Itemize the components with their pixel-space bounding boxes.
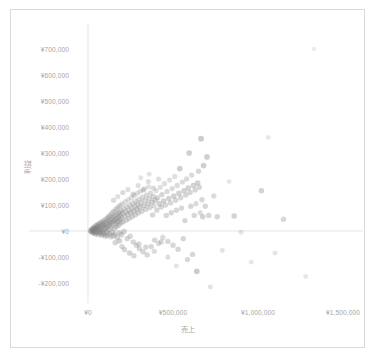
data-point — [151, 185, 156, 190]
data-point — [200, 214, 206, 220]
data-point — [231, 213, 237, 219]
data-point — [127, 234, 132, 239]
y-axis-title: 利益 — [22, 147, 32, 187]
data-point — [174, 208, 179, 213]
data-point — [141, 187, 146, 192]
data-point — [146, 179, 151, 184]
data-point — [170, 243, 175, 248]
y-axis-tick-label: ¥300,000 — [41, 150, 69, 157]
data-point — [204, 154, 210, 160]
data-point — [136, 241, 141, 246]
data-point — [149, 244, 154, 249]
data-point — [151, 203, 156, 208]
data-point — [178, 195, 183, 200]
x-axis-title: 売上 — [11, 324, 366, 334]
data-point — [184, 176, 189, 181]
chart-container: ¥700,000¥600,000¥500,000¥400,000¥300,000… — [10, 9, 365, 348]
data-point — [220, 248, 225, 253]
data-point — [165, 254, 170, 259]
data-point — [144, 252, 149, 257]
data-point — [111, 198, 116, 203]
data-point — [179, 205, 184, 210]
x-axis-tick-label: ¥1,000,000 — [241, 309, 275, 316]
data-point — [208, 284, 213, 289]
data-point — [164, 213, 169, 218]
data-point — [117, 238, 123, 244]
data-points-layer — [88, 47, 317, 290]
y-axis-tick-label: ¥0 — [61, 228, 69, 235]
data-point — [159, 192, 164, 197]
y-axis-tick-label: ¥500,000 — [41, 98, 69, 105]
data-point — [165, 239, 170, 244]
data-point — [215, 214, 220, 219]
data-point — [177, 166, 183, 172]
y-axis-tick-label: -¥100,000 — [38, 254, 69, 261]
data-point — [227, 179, 232, 184]
data-point — [174, 264, 179, 269]
data-point — [162, 181, 167, 186]
data-point — [158, 185, 163, 190]
data-point — [189, 172, 194, 177]
data-point — [120, 190, 125, 195]
gridlines — [29, 24, 363, 303]
data-point — [193, 201, 198, 206]
data-point — [146, 184, 151, 189]
data-point — [122, 247, 127, 252]
x-axis-tick-label: ¥500,000 — [159, 309, 187, 316]
data-point — [175, 183, 180, 188]
data-point — [249, 260, 254, 265]
data-point — [131, 253, 136, 258]
data-point — [190, 252, 195, 257]
y-axis-tick-label: -¥200,000 — [38, 280, 69, 287]
data-point — [281, 217, 286, 222]
data-point — [203, 204, 208, 209]
data-point — [273, 251, 278, 256]
data-point — [163, 202, 168, 207]
data-point — [170, 186, 175, 191]
data-point — [136, 183, 141, 188]
y-axis-tick-label: ¥200,000 — [41, 176, 69, 183]
data-point — [175, 247, 180, 252]
data-point — [186, 150, 192, 156]
data-point — [150, 212, 155, 217]
data-point — [115, 194, 120, 199]
data-point — [169, 210, 174, 215]
x-axis-tick-label: ¥1,500,000 — [326, 309, 360, 316]
data-point — [303, 274, 308, 279]
data-point — [266, 135, 271, 140]
data-point — [143, 244, 148, 249]
data-point — [196, 169, 201, 174]
data-point — [239, 230, 244, 235]
data-point — [180, 179, 185, 184]
data-point — [147, 172, 152, 177]
data-point — [138, 175, 143, 180]
data-point — [152, 249, 157, 254]
data-point — [259, 188, 265, 194]
data-point — [172, 174, 177, 179]
data-point — [168, 200, 173, 205]
data-point — [173, 198, 178, 203]
y-axis-tick-label: ¥400,000 — [41, 124, 69, 131]
data-point — [192, 213, 197, 218]
data-point — [125, 187, 130, 192]
data-point — [181, 236, 186, 241]
data-point — [206, 213, 211, 218]
data-point — [156, 176, 161, 181]
data-point — [182, 218, 187, 223]
data-point — [199, 197, 204, 202]
data-point — [197, 185, 202, 190]
data-point — [167, 177, 172, 182]
data-point — [194, 268, 200, 274]
data-point — [121, 229, 127, 235]
data-point — [188, 204, 193, 209]
data-point — [198, 136, 204, 142]
y-axis-tick-label: ¥700,000 — [41, 46, 69, 53]
data-point — [185, 257, 190, 262]
y-axis-tick-label: ¥600,000 — [41, 72, 69, 79]
data-point — [130, 191, 135, 196]
y-axis-tick-label: ¥100,000 — [41, 202, 69, 209]
data-point — [187, 190, 192, 195]
data-point — [211, 193, 216, 198]
data-point — [201, 163, 207, 169]
data-point — [312, 47, 317, 52]
